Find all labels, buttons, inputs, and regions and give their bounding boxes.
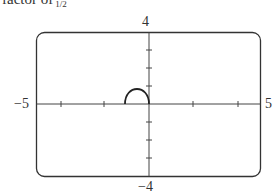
y-max-label: 4 xyxy=(142,15,149,29)
graph-plot xyxy=(0,0,276,193)
y-min-label: −4 xyxy=(138,180,153,193)
semicircle-curve xyxy=(125,89,149,104)
x-max-label: 5 xyxy=(265,97,272,111)
x-min-label: −5 xyxy=(14,97,29,111)
